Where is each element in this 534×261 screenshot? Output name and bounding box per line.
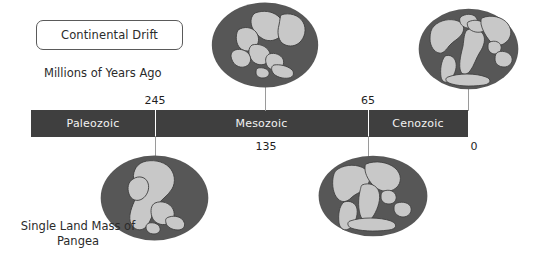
tick-label-0: 0 [454, 140, 494, 153]
tick-label-245: 245 [135, 94, 175, 107]
globe-top-left-icon [211, 2, 319, 88]
pangea-caption-line1: Single Land Mass of [21, 219, 135, 233]
axis-caption: Millions of Years Ago [44, 66, 162, 80]
era-label-mesozoic: Mesozoic [155, 111, 368, 136]
title-label: Continental Drift [61, 28, 158, 42]
era-label-cenozoic: Cenozoic [368, 111, 468, 136]
continental-drift-diagram: Continental Drift Millions of Years Ago … [0, 0, 534, 261]
title-box: Continental Drift [36, 20, 183, 50]
tick-label-135: 135 [246, 140, 286, 153]
pangea-caption: Single Land Mass of Pangea [8, 219, 148, 249]
pangea-caption-line2: Pangea [57, 234, 99, 248]
era-label-paleozoic: Paleozoic [31, 111, 155, 136]
globe-top-right-icon [418, 8, 519, 90]
globe-bottom-right-icon [318, 155, 428, 237]
era-divider-65 [368, 110, 369, 137]
era-divider-245 [155, 110, 156, 137]
tick-label-65: 65 [348, 94, 388, 107]
